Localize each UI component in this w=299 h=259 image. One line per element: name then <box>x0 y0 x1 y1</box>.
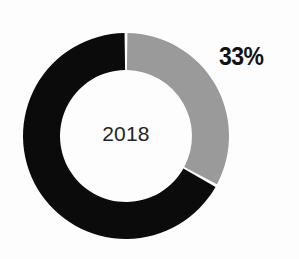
donut-slice-share[interactable] <box>127 33 229 184</box>
donut-center-label: 2018 <box>0 122 252 146</box>
donut-percent-label: 33% <box>219 42 276 70</box>
donut-chart: 2018 33% <box>0 0 299 259</box>
